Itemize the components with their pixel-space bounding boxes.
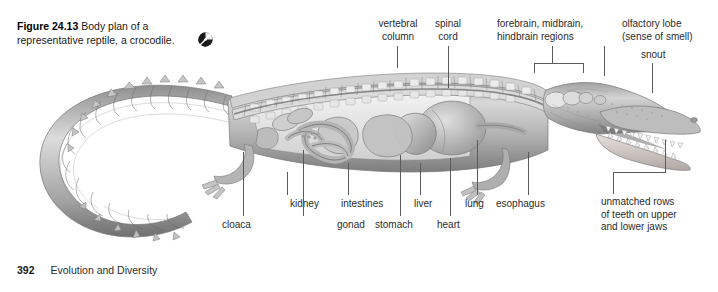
label-heart: heart	[437, 219, 460, 232]
label-spinal-cord: spinal cord	[424, 18, 472, 43]
leader-stomach	[400, 155, 401, 216]
label-cloaca: cloaca	[222, 219, 251, 232]
leader-unmatched-teeth	[613, 172, 614, 194]
vertebral-column-structure	[230, 73, 546, 123]
leader-esophagus	[528, 152, 529, 195]
label-stomach: stomach	[375, 219, 413, 232]
label-esophagus: esophagus	[496, 198, 545, 211]
label-gonad: gonad	[337, 219, 365, 232]
leader-snout	[652, 63, 653, 93]
figure-caption: Figure 24.13 Body plan of a representati…	[17, 20, 217, 47]
leader-cloaca	[243, 152, 244, 216]
label-brain-regions: forebrain, midbrain, hindbrain regions	[497, 18, 617, 43]
leader-vertebral-column	[397, 46, 398, 68]
internal-organs	[256, 101, 524, 160]
multimedia-disc-icon[interactable]	[197, 31, 214, 48]
brain-structures	[545, 91, 606, 108]
leader-brain-regions	[552, 46, 553, 64]
label-liver: liver	[414, 198, 432, 211]
leader-gonad	[303, 150, 304, 216]
book-section-title: Evolution and Diversity	[51, 264, 158, 276]
leader-intestines	[348, 163, 349, 195]
leader-olfactory-lobe	[604, 46, 605, 76]
label-intestines: intestines	[341, 198, 383, 211]
label-vertebral-column: vertebral column	[369, 18, 427, 43]
brain-regions-bracket	[534, 63, 584, 73]
page-number: 392	[17, 264, 35, 276]
leader-teeth-connector	[613, 172, 665, 173]
torso-region	[228, 75, 548, 172]
leader-kidney	[287, 172, 288, 195]
figure-page: Figure 24.13 Body plan of a representati…	[0, 0, 718, 292]
page-footer: 392Evolution and Diversity	[17, 264, 157, 276]
label-kidney: kidney	[290, 198, 319, 211]
label-unmatched-teeth: unmatched rows of teeth on upper and low…	[601, 196, 713, 234]
legs	[202, 144, 510, 204]
head-region	[543, 83, 700, 171]
leader-teeth-upper	[665, 140, 666, 173]
leader-liver	[420, 163, 421, 195]
label-snout: snout	[641, 49, 665, 62]
tail-region	[40, 75, 232, 241]
leader-spinal-cord	[448, 46, 449, 88]
figure-number: Figure 24.13	[17, 20, 78, 32]
label-lung: lung	[465, 198, 484, 211]
leader-lung	[477, 140, 478, 195]
leader-heart	[450, 158, 451, 216]
label-olfactory-lobe: olfactory lobe (sense of smell)	[622, 18, 718, 43]
